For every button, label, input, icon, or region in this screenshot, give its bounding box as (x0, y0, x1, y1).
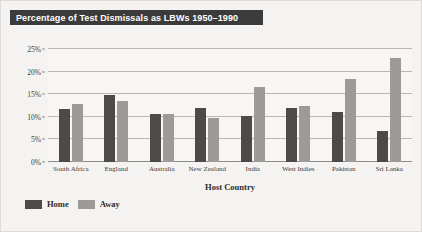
chart-legend: Home Away (25, 199, 120, 209)
bar-home (286, 108, 297, 162)
y-axis-tick-label: 0% (31, 158, 41, 167)
bar-away (390, 58, 401, 162)
bar-group (48, 49, 94, 162)
bar-group (94, 49, 140, 162)
bar-home (332, 112, 343, 162)
bar-home (150, 114, 161, 162)
y-axis-tick-label: 10% (27, 112, 41, 121)
y-axis-tick-mark (42, 71, 45, 72)
x-axis-tick-label: Australia (139, 165, 185, 173)
legend-item-away: Away (78, 199, 120, 209)
bar-home (241, 116, 252, 162)
bar-away (163, 114, 174, 162)
chart-title: Percentage of Test Dismissals as LBWs 19… (10, 13, 238, 23)
x-axis-tick-label: India (230, 165, 276, 173)
legend-label-away: Away (100, 199, 120, 209)
y-axis-tick-mark (42, 94, 45, 95)
chart-title-bar: Percentage of Test Dismissals as LBWs 19… (10, 10, 263, 25)
legend-label-home: Home (47, 199, 69, 209)
y-axis-tick-mark (42, 116, 45, 117)
bar-group (139, 49, 185, 162)
bar-home (59, 109, 70, 162)
x-axis-tick-labels: South AfricaEnglandAustraliaNew ZealandI… (48, 165, 412, 173)
bar-group (276, 49, 322, 162)
chart-figure: Percentage of Test Dismissals as LBWs 19… (0, 0, 422, 232)
x-axis-tick-label: Sri Lanka (367, 165, 413, 173)
y-axis-tick-mark (42, 162, 45, 163)
y-axis-tick-mark (42, 139, 45, 140)
bar-away (299, 106, 310, 162)
legend-item-home: Home (25, 199, 69, 209)
bar-home (377, 131, 388, 162)
bar-away (208, 118, 219, 162)
bar-away (117, 101, 128, 162)
y-axis: 0%5%10%15%20%25% (13, 49, 45, 162)
bar-group (185, 49, 231, 162)
legend-swatch-away (78, 200, 95, 209)
bar-series-layer (48, 49, 412, 162)
x-axis-title: Host Country (48, 182, 412, 192)
bar-away (72, 104, 83, 162)
y-axis-tick-label: 5% (31, 135, 41, 144)
x-axis-tick-label: South Africa (48, 165, 94, 173)
x-axis-tick-label: England (94, 165, 140, 173)
y-axis-tick-label: 15% (27, 90, 41, 99)
bar-group (230, 49, 276, 162)
bar-away (345, 79, 356, 162)
bar-home (104, 95, 115, 162)
bar-away (254, 87, 265, 162)
y-axis-tick-mark (42, 49, 45, 50)
legend-swatch-home (25, 200, 42, 209)
bar-group (367, 49, 413, 162)
y-axis-tick-label: 20% (27, 67, 41, 76)
x-axis-tick-label: Pakistan (321, 165, 367, 173)
bar-home (195, 108, 206, 162)
x-axis-tick-label: West Indies (276, 165, 322, 173)
y-axis-tick-label: 25% (27, 45, 41, 54)
bar-group (321, 49, 367, 162)
x-axis-tick-label: New Zealand (185, 165, 231, 173)
